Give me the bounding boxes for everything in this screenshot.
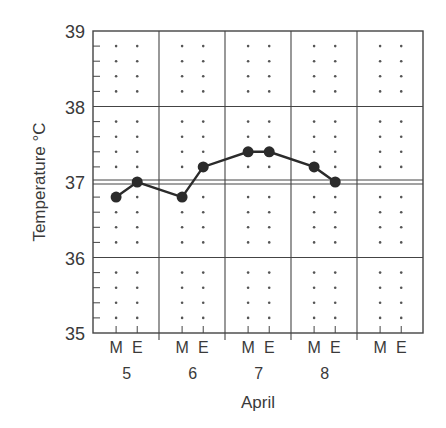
data-point	[243, 146, 254, 157]
data-point	[132, 177, 143, 188]
x-slot-label: E	[264, 339, 275, 356]
x-axis-label: April	[241, 393, 275, 412]
y-tick-label: 38	[65, 98, 85, 118]
x-day-label: 8	[320, 365, 329, 382]
data-point	[177, 192, 188, 203]
data-point	[330, 177, 341, 188]
x-slot-label: E	[330, 339, 341, 356]
x-slot-label: M	[373, 339, 386, 356]
y-tick-label: 37	[65, 173, 85, 193]
x-slot-label: E	[132, 339, 143, 356]
data-point	[198, 161, 209, 172]
x-slot-label: M	[175, 339, 188, 356]
x-day-label: 6	[188, 365, 197, 382]
x-slot-label: E	[396, 339, 407, 356]
y-axis-label: Temperature °C	[30, 122, 49, 241]
data-point	[309, 161, 320, 172]
temperature-line	[111, 146, 341, 202]
y-tick-label: 36	[65, 249, 85, 269]
x-day-label: 5	[122, 365, 131, 382]
y-tick-label: 35	[65, 324, 85, 344]
x-slot-label: E	[198, 339, 209, 356]
grid	[93, 31, 423, 340]
data-point	[264, 146, 275, 157]
x-day-label: 7	[254, 365, 263, 382]
x-slot-label: M	[241, 339, 254, 356]
x-slot-label: M	[307, 339, 320, 356]
data-point	[111, 192, 122, 203]
x-slot-label: M	[109, 339, 122, 356]
grid-dots	[115, 45, 403, 319]
y-tick-label: 39	[65, 22, 85, 42]
temperature-chart: ME5ME6ME7ME8ME3536373839 Temperature °C …	[0, 0, 446, 428]
